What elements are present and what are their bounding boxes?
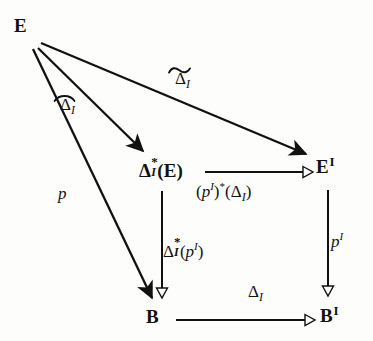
hat-delta-subscript: I (71, 103, 75, 117)
node-delta-star-E-indices: *I (151, 158, 157, 177)
delta-indices: *I (174, 238, 180, 257)
node-B-label: B (146, 306, 159, 327)
p-glyph: p (186, 242, 195, 261)
label-p: p (58, 185, 67, 202)
node-B-superscript-I: BI (320, 306, 339, 325)
node-BI-base: B (320, 305, 333, 326)
paren-close-2: ) (246, 182, 252, 201)
label-pullback-delta-I: (pI)*(ΔI) (196, 183, 251, 200)
subscript-I: I (259, 290, 263, 304)
delta-glyph: Δ (163, 242, 174, 261)
subscript-I: I (174, 246, 179, 258)
commutative-diagram-figure: E Δ*I(E) EI B BI ΔI ΔI p (pI)*(ΔI) Δ*I(p… (0, 0, 373, 341)
label-delta-star-I-of-p-I: Δ*I(pI) (163, 238, 203, 260)
label-hat-delta-I: ΔI (60, 96, 75, 113)
p-glyph: p (331, 232, 340, 251)
hat-accent-group: Δ (60, 96, 71, 113)
node-E-superscript-I: EI (316, 157, 335, 176)
label-p-superscript-I: pI (331, 233, 343, 250)
arrow-delta-star-e-to-ei-head (303, 167, 313, 178)
node-delta-star-E-tail: (E) (157, 160, 183, 181)
subscript-I: I (151, 166, 156, 178)
arrow-delta-star-e-to-b-head (157, 288, 168, 298)
hat-delta-base: Δ (60, 95, 71, 114)
label-tilde-delta-I: ΔI (175, 70, 190, 87)
label-delta-I: ΔI (248, 283, 263, 300)
node-EI-base: E (316, 156, 329, 177)
tilde-delta-subscript: I (186, 77, 190, 91)
delta-glyph: Δ (248, 282, 259, 301)
label-p-text: p (58, 184, 67, 203)
arrow-e-to-b (33, 49, 152, 298)
paren-close: ) (198, 242, 204, 261)
tilde-delta-base: Δ (175, 69, 186, 88)
delta-glyph: Δ (231, 182, 242, 201)
node-E-label: E (14, 15, 27, 36)
node-delta-star-E: Δ*I(E) (139, 158, 183, 180)
node-delta-star-E-delta: Δ (139, 160, 151, 181)
node-B: B (146, 307, 159, 326)
arrow-b-to-bi-head (305, 315, 315, 326)
tilde-accent-group: Δ (175, 70, 186, 87)
node-E: E (14, 16, 27, 35)
arrow-e-to-ei (41, 43, 306, 154)
node-BI-superscript: I (333, 303, 338, 318)
node-EI-superscript: I (329, 154, 334, 169)
arrow-ei-to-bi-head (323, 286, 334, 296)
superscript-I: I (340, 230, 344, 242)
p-glyph: p (202, 182, 211, 201)
